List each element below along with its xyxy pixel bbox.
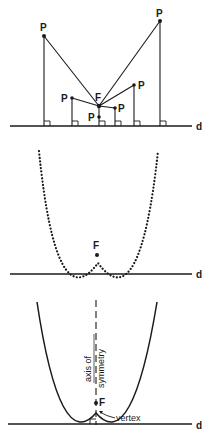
axis-label: axis of xyxy=(83,355,93,382)
point-label: P xyxy=(138,80,145,91)
focus-point xyxy=(94,401,98,405)
dotted-parabola-curve xyxy=(39,151,158,277)
focus-point xyxy=(97,104,101,108)
panel-parabola-axis-vertex: axis of symmetry F vertex d xyxy=(8,300,202,431)
focus-label: F xyxy=(99,397,105,408)
point-label: P xyxy=(88,112,95,123)
point-label: P xyxy=(118,103,125,114)
point-label: P xyxy=(40,22,47,33)
panel-focus-directrix-construction: d xyxy=(10,8,202,132)
vertex-label: vertex xyxy=(116,413,141,423)
directrix-label: d xyxy=(196,269,202,280)
point-label: P xyxy=(61,93,68,104)
point-label: P xyxy=(156,8,163,19)
focus-label: F xyxy=(95,92,101,103)
parabola-diagram: d xyxy=(0,0,217,448)
perpendicular-lines xyxy=(44,21,160,126)
right-angle-mark xyxy=(90,419,96,424)
right-angle-marks xyxy=(44,121,166,126)
directrix-label: d xyxy=(196,420,202,431)
focus-point xyxy=(95,253,99,257)
focus-label: F xyxy=(93,240,99,251)
axis-label: symmetry xyxy=(96,349,106,388)
directrix-label: d xyxy=(196,121,202,132)
vertex-pointer xyxy=(100,412,115,418)
panel-dotted-parabola: F d xyxy=(10,151,202,280)
